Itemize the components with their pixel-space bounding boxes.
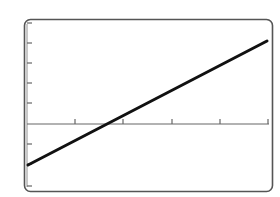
- graph-frame: [25, 20, 273, 192]
- graph-screen: [0, 0, 280, 197]
